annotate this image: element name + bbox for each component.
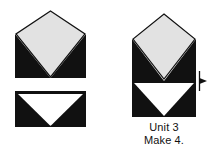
press-direction-arrow: [197, 70, 211, 92]
square-on-point-svg: [15, 10, 86, 78]
press-arrow-icon: [197, 70, 211, 92]
assembled-flying-geese-svg: [132, 81, 196, 117]
component-flying-geese-unit: [15, 91, 86, 127]
assembled-square-on-point-half: [132, 13, 196, 81]
caption-make-label: Make 4.: [124, 134, 204, 147]
component-square-on-point-unit: [15, 10, 86, 78]
caption-unit-label: Unit 3: [124, 121, 204, 134]
assembled-square-on-point-svg: [132, 13, 196, 81]
arrow-head: [200, 78, 208, 84]
diagram-canvas: Unit 3 Make 4.: [0, 0, 222, 155]
caption-block: Unit 3 Make 4.: [124, 121, 204, 147]
flying-geese-svg: [15, 91, 86, 127]
assembled-flying-geese-half: [132, 81, 196, 117]
assembled-unit-3: [132, 13, 196, 117]
